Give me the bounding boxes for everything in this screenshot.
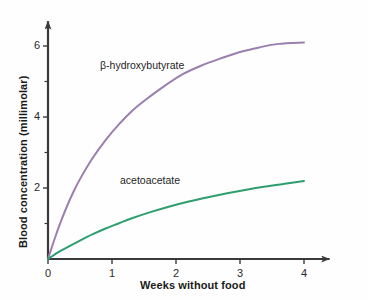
x-tick-label: 1 [98,267,126,279]
axes [48,21,330,259]
series-curves [48,42,304,259]
x-tick-label: 2 [162,267,190,279]
plot-area [0,0,368,300]
x-tick-label: 3 [226,267,254,279]
y-tick-label: 2 [18,181,40,193]
series-curve-acetoacetate [48,181,304,259]
chart-figure: Blood concentration (millimolar) Weeks w… [0,0,368,300]
y-axis-title-text: Blood concentration (millimolar) [17,76,29,249]
series-label-acetoacetate: acetoacetate [120,174,180,186]
y-tick-label: 4 [18,110,40,122]
x-tick-label: 0 [34,267,62,279]
x-axis-title: Weeks without food [140,279,245,291]
y-tick-label: 6 [18,39,40,51]
y-axis-title: Blood concentration (millimolar) [0,0,20,300]
series-label-bhb: β-hydroxybutyrate [100,59,184,71]
series-curve-bhb [48,42,304,259]
x-tick-label: 4 [290,267,318,279]
